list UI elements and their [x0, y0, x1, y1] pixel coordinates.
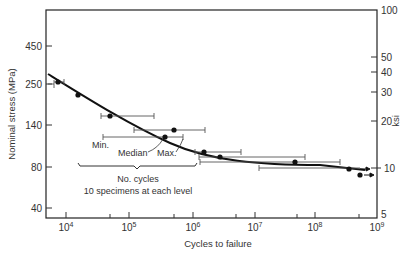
- y-tick-450: 450: [25, 41, 42, 52]
- y-tick-250: 250: [25, 79, 42, 90]
- x-tick-1e7: 107: [247, 221, 262, 233]
- y-tick-140: 140: [25, 120, 42, 131]
- y-axis-left: [46, 46, 52, 208]
- y-axis-right: [371, 57, 381, 168]
- sn-curve: [48, 74, 365, 170]
- annotation-min: Min.: [92, 140, 109, 150]
- y-tick-labels-right: 100 50 40 30 20 10 5: [381, 5, 398, 220]
- x-axis-label: Cycles to failure: [184, 238, 252, 249]
- ksi-tick-5: 5: [381, 209, 387, 220]
- x-tick-labels: 104 105 106 107 108 109: [58, 221, 384, 233]
- y-axis-label: Nominal stress (MPa): [6, 68, 17, 159]
- y-tick-40: 40: [31, 203, 43, 214]
- x-tick-1e9: 109: [369, 221, 384, 233]
- y-axis-right-label: ksi: [390, 115, 401, 127]
- ksi-tick-10: 10: [384, 163, 396, 174]
- annotation-no-cycles: No. cycles: [117, 174, 159, 184]
- x-axis: [66, 212, 359, 218]
- x-tick-1e8: 108: [307, 221, 322, 233]
- scatter-bands: [48, 79, 360, 171]
- brace: [78, 163, 197, 169]
- sn-fatigue-chart: 450 250 140 80 40 Nominal stress (MPa) 1…: [0, 0, 409, 254]
- x-tick-1e4: 104: [58, 221, 73, 233]
- y-tick-labels-left: 450 250 140 80 40: [25, 41, 42, 214]
- annotation-median: Median: [118, 148, 148, 158]
- median-points: [55, 79, 362, 177]
- annotation-max: Max.: [157, 148, 177, 158]
- x-tick-1e5: 105: [121, 221, 136, 233]
- x-tick-1e6: 106: [185, 221, 200, 233]
- y-tick-80: 80: [31, 162, 43, 173]
- annotations: Min. Median Max. No. cycles 10 specimens…: [78, 139, 197, 196]
- ksi-tick-30: 30: [381, 87, 393, 98]
- ksi-tick-50: 50: [381, 52, 393, 63]
- annotation-specimens: 10 specimens at each level: [84, 186, 193, 196]
- ksi-tick-100: 100: [381, 5, 398, 16]
- ksi-tick-40: 40: [381, 67, 393, 78]
